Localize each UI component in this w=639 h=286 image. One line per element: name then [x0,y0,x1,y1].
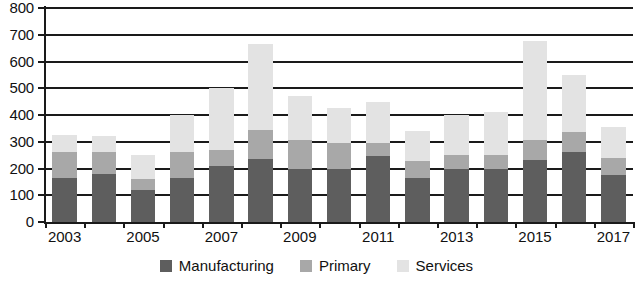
y-axis-tick-mark [38,7,46,9]
bar-segment-manufacturing-2013 [444,169,468,223]
y-axis-tick-label: 100 [0,187,34,202]
bar-segment-primary-2015 [523,140,547,160]
bar-2004 [92,136,116,222]
legend-item-services[interactable]: Services [397,258,474,274]
bar-2005 [131,155,155,222]
y-axis-tick-label: 500 [0,80,34,95]
y-axis-tick-label: 400 [0,107,34,122]
y-axis-tick-mark [38,141,46,143]
bar-2017 [601,127,625,222]
x-axis-tick-label: 2009 [270,228,330,246]
bar-segment-manufacturing-2003 [52,178,76,222]
bar-segment-manufacturing-2011 [366,156,390,222]
bar-segment-manufacturing-2010 [327,169,351,223]
bar-2010 [327,108,351,222]
bar-segment-manufacturing-2009 [288,169,312,223]
bar-segment-services-2005 [131,155,155,179]
bar-segment-primary-2016 [562,132,586,152]
bar-2013 [444,115,468,222]
bar-segment-manufacturing-2006 [170,178,194,222]
bar-2016 [562,75,586,222]
bar-segment-primary-2010 [327,143,351,168]
bar-segment-services-2009 [288,96,312,140]
legend-swatch-icon [160,260,172,272]
bar-segment-primary-2012 [405,161,429,178]
bar-segment-manufacturing-2005 [131,190,155,222]
bar-2014 [484,112,508,222]
bar-segment-primary-2007 [209,150,233,166]
bar-segment-primary-2013 [444,155,468,168]
bar-segment-manufacturing-2016 [562,152,586,222]
bar-segment-services-2016 [562,75,586,133]
bar-2009 [288,96,312,222]
bar-segment-primary-2017 [601,158,625,175]
bar-segment-primary-2004 [92,152,116,173]
bar-segment-primary-2011 [366,143,390,156]
bar-segment-services-2015 [523,41,547,140]
y-axis-tick-label: 700 [0,27,34,42]
bar-2015 [523,41,547,222]
x-axis-tick-label: 2015 [505,228,565,246]
x-axis-tick-label: 2003 [35,228,95,246]
legend-swatch-icon [300,260,312,272]
legend-label: Primary [319,258,371,274]
x-axis-tick-label: 2005 [113,228,173,246]
y-axis-labels: 0100200300400500600700800 [0,0,36,230]
y-axis-tick-mark [38,114,46,116]
bar-segment-manufacturing-2012 [405,178,429,222]
x-axis-tick-label: 2011 [348,228,408,246]
bar-2008 [248,44,272,222]
bar-segment-manufacturing-2008 [248,159,272,222]
bar-segment-services-2017 [601,127,625,158]
x-axis-tick-label: 2013 [427,228,487,246]
y-axis-tick-mark [38,34,46,36]
bar-segment-manufacturing-2015 [523,160,547,222]
bar-segment-services-2006 [170,115,194,152]
y-axis-tick-mark [38,61,46,63]
bar-2007 [209,88,233,222]
legend-item-primary[interactable]: Primary [300,258,371,274]
y-axis-tick-label: 800 [0,0,34,15]
bar-segment-services-2008 [248,44,272,130]
bar-2003 [52,135,76,222]
y-axis-tick-mark [38,168,46,170]
bar-segment-services-2014 [484,112,508,155]
bar-2011 [366,102,390,222]
bar-segment-primary-2014 [484,155,508,168]
y-axis-tick-mark [38,87,46,89]
legend-label: Manufacturing [179,258,274,274]
y-axis-tick-label: 300 [0,134,34,149]
plot-area [45,8,633,222]
bar-segment-services-2012 [405,131,429,160]
y-axis-tick-label: 0 [0,214,34,229]
y-axis-tick-mark [38,221,46,223]
bar-segment-primary-2009 [288,140,312,168]
bar-segment-services-2011 [366,102,390,143]
y-axis-tick-label: 200 [0,161,34,176]
bar-segment-manufacturing-2004 [92,174,116,222]
legend-label: Services [416,258,474,274]
legend-item-manufacturing[interactable]: Manufacturing [160,258,274,274]
bar-segment-primary-2006 [170,152,194,177]
bar-segment-services-2004 [92,136,116,152]
bar-segment-services-2010 [327,108,351,143]
x-axis-tick-label: 2017 [583,228,639,246]
y-axis-tick-label: 600 [0,54,34,69]
bar-segment-manufacturing-2007 [209,166,233,222]
bar-segment-primary-2003 [52,152,76,177]
chart-legend: ManufacturingPrimaryServices [0,258,633,274]
x-axis-labels: 20032005200720092011201320152017 [0,228,633,252]
bar-segment-manufacturing-2014 [484,169,508,223]
y-axis-tick-mark [38,194,46,196]
bar-2006 [170,115,194,222]
bar-series-container [45,8,633,222]
bar-segment-services-2013 [444,115,468,155]
x-axis-tick-label: 2007 [191,228,251,246]
bar-segment-primary-2005 [131,179,155,190]
bar-segment-services-2003 [52,135,76,152]
legend-swatch-icon [397,260,409,272]
bar-segment-manufacturing-2017 [601,175,625,222]
bar-2012 [405,131,429,222]
bar-segment-primary-2008 [248,130,272,159]
